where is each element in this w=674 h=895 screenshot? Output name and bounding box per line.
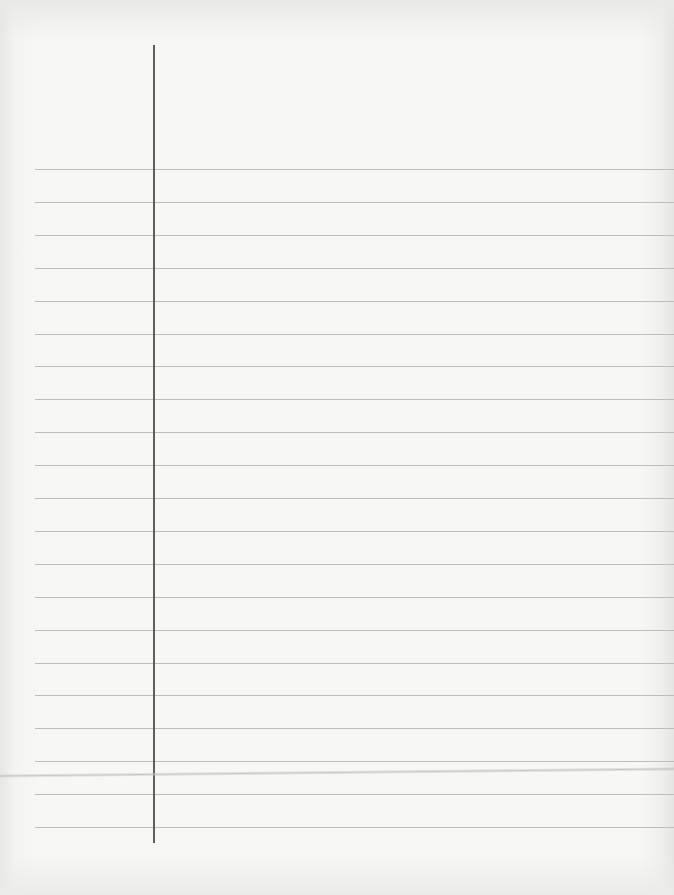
ruled-line — [35, 531, 674, 532]
ruled-line — [35, 334, 674, 335]
ruled-line — [35, 169, 674, 170]
ruled-line — [35, 695, 674, 696]
ruled-line — [35, 794, 674, 795]
bottom-edge-shadow — [0, 855, 674, 895]
ruled-line — [35, 366, 674, 367]
ruled-line — [35, 597, 674, 598]
ruled-line — [35, 564, 674, 565]
ruled-line — [35, 399, 674, 400]
ruled-line — [35, 761, 674, 762]
ruled-line — [35, 301, 674, 302]
top-edge-shadow — [0, 0, 674, 40]
ruled-line — [35, 630, 674, 631]
ruled-line — [35, 268, 674, 269]
ruled-line — [35, 432, 674, 433]
ruled-line — [35, 235, 674, 236]
ruled-line — [35, 663, 674, 664]
notebook-paper — [0, 0, 674, 895]
ruled-line — [35, 827, 674, 828]
margin-line — [153, 45, 155, 843]
paper-crease — [0, 767, 674, 778]
ruled-line — [35, 202, 674, 203]
ruled-line — [35, 728, 674, 729]
ruled-line — [35, 498, 674, 499]
ruled-line — [35, 465, 674, 466]
